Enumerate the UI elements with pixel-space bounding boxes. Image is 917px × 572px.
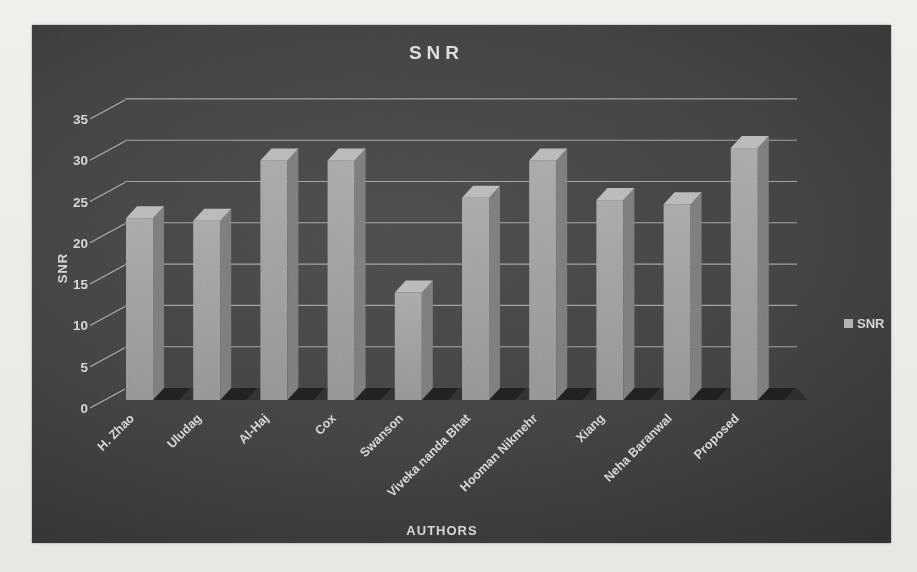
- legend-series-marker-icon: [844, 319, 853, 328]
- legend-series-label: SNR: [857, 316, 884, 331]
- chart-title: SNR: [32, 42, 841, 64]
- photographed-chart-page: 05101520253035H. ZhaoUludagAl-HajCoxSwan…: [0, 0, 917, 572]
- grain-overlay: [32, 25, 891, 543]
- x-axis-title: AUTHORS: [32, 523, 852, 538]
- legend: SNR: [844, 316, 884, 331]
- chart-plot-panel: 05101520253035H. ZhaoUludagAl-HajCoxSwan…: [32, 25, 891, 543]
- chart-canvas: 05101520253035H. ZhaoUludagAl-HajCoxSwan…: [32, 25, 891, 543]
- y-axis-title: SNR: [55, 253, 70, 283]
